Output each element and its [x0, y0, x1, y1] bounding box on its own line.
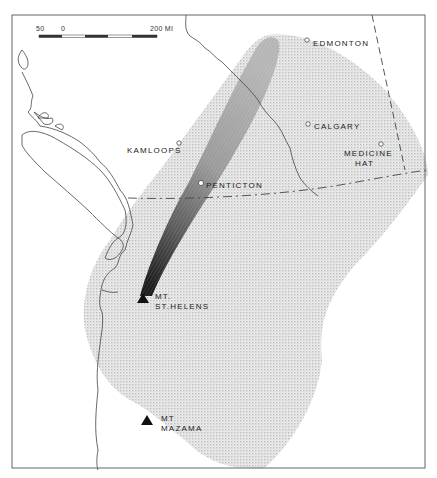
city-label: KAMLOOPS — [127, 146, 182, 155]
city-marker-icon — [198, 180, 203, 185]
city-label: PENTICTON — [206, 181, 263, 190]
volcano-label: MT. — [155, 292, 172, 301]
ash-distribution-map: 50 0 200 MI EDMONTON CALGARY MEDICINE HA… — [0, 0, 437, 478]
city-label: MEDICINE — [344, 149, 393, 158]
volcano-label-line2: ST.HELENS — [155, 302, 209, 311]
volcano-icon — [141, 415, 153, 425]
city-marker-icon — [305, 38, 309, 42]
city-marker-icon — [306, 122, 310, 126]
volcano-label: MT — [161, 414, 175, 423]
volcano-label-line2: MAZAMA — [161, 424, 202, 433]
scale-bar: 50 0 200 MI — [36, 25, 173, 38]
city-kamloops: KAMLOOPS — [127, 141, 182, 155]
city-label-line2: HAT — [355, 159, 374, 168]
city-label: EDMONTON — [313, 39, 369, 48]
city-label: CALGARY — [314, 122, 361, 131]
scale-label-0: 0 — [61, 25, 65, 32]
scale-label-200: 200 MI — [150, 25, 173, 32]
city-calgary: CALGARY — [306, 122, 361, 131]
scale-label-50: 50 — [36, 25, 44, 32]
city-marker-icon — [177, 141, 181, 145]
city-penticton: PENTICTON — [198, 180, 262, 190]
city-marker-icon — [379, 142, 383, 146]
city-edmonton: EDMONTON — [305, 38, 369, 48]
